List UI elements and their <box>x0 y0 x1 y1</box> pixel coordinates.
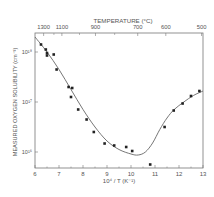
top-tick-label: 700 <box>133 24 143 30</box>
x-tick-label: 11 <box>152 171 159 177</box>
x-tick-label: 10 <box>128 171 135 177</box>
oxygen-solubility-chart: 678910111213 13001100900700600500 10¹⁸10… <box>0 0 214 197</box>
data-point <box>103 142 106 145</box>
data-point <box>172 109 175 112</box>
x-tick-label: 9 <box>105 171 109 177</box>
top-axis-title: TEMPERATURE (°C) <box>93 17 152 24</box>
x-tick-label: 7 <box>57 171 61 177</box>
x-tick-label: 6 <box>33 171 37 177</box>
y-axis-title: MEASURED OXYGEN SOLUBILITY (cm⁻³) <box>12 48 18 157</box>
y-tick-label: 10¹⁸ <box>22 49 32 55</box>
data-point <box>55 68 58 71</box>
data-points <box>40 43 201 166</box>
data-point <box>149 163 152 166</box>
x-tick-label: 8 <box>81 171 85 177</box>
y-tick-label: 10¹⁷ <box>22 99 32 105</box>
data-point <box>125 146 128 149</box>
fit-curve <box>35 37 203 155</box>
top-tick-label: 500 <box>197 24 207 30</box>
data-point <box>131 150 134 153</box>
y-axis-ticks: 10¹⁸10¹⁷10¹⁶ <box>22 49 38 155</box>
data-point <box>45 48 48 51</box>
data-point <box>40 43 43 46</box>
top-tick-label: 600 <box>161 24 171 30</box>
data-point <box>181 102 184 105</box>
data-point <box>46 54 49 57</box>
data-point <box>67 86 70 89</box>
data-point <box>71 87 74 90</box>
top-tick-label: 1300 <box>37 24 50 30</box>
x-tick-label: 12 <box>176 171 183 177</box>
plot-border <box>35 33 203 168</box>
data-point <box>52 53 55 56</box>
top-tick-label: 900 <box>91 24 101 30</box>
data-point <box>163 126 166 129</box>
data-point <box>113 144 116 147</box>
data-point <box>70 96 73 99</box>
data-point <box>93 131 96 134</box>
x-axis-ticks: 678910111213 <box>33 165 207 177</box>
data-point <box>190 95 193 98</box>
data-point <box>85 118 88 121</box>
x-tick-label: 13 <box>200 171 207 177</box>
y-tick-label: 10¹⁶ <box>22 149 32 155</box>
data-point <box>77 108 80 111</box>
plot-frame <box>35 33 203 168</box>
top-tick-label: 1100 <box>56 24 68 30</box>
data-point <box>46 52 49 55</box>
top-temperature-axis-ticks: 13001100900700600500 <box>37 24 206 36</box>
data-point <box>198 90 201 93</box>
x-axis-title: 10⁴ / T (K⁻¹) <box>103 178 135 184</box>
